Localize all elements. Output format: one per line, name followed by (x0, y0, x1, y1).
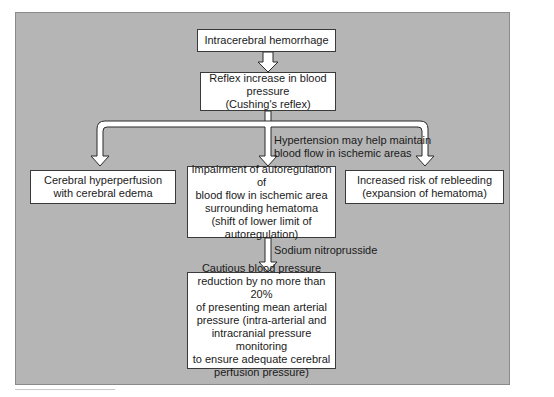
node-reflex-increase: Reflex increase in blood pressure (Cushi… (200, 72, 336, 111)
arrow-start-to-reflex (258, 52, 278, 72)
node-text: Reflex increase in blood pressure (Cushi… (204, 72, 332, 111)
edge-label-hypertension: Hypertension may help maintain blood flo… (274, 134, 431, 160)
node-cerebral-hyperperfusion: Cerebral hyperperfusion with cerebral ed… (30, 170, 176, 204)
node-cautious-bp-reduction: Cautious blood pressure reduction by no … (187, 272, 336, 369)
node-text: Increased risk of rebleeding (expansion … (357, 174, 492, 200)
edge-label-sodium-nitroprusside: Sodium nitroprusside (274, 244, 377, 257)
node-text: Cerebral hyperperfusion with cerebral ed… (44, 174, 162, 200)
node-impairment-autoregulation: Impairment of autoregulation of blood fl… (187, 166, 336, 238)
node-text: Intracerebral hemorrhage (204, 34, 328, 47)
branch-stem (265, 111, 271, 122)
node-intracerebral-hemorrhage: Intracerebral hemorrhage (197, 29, 336, 52)
node-text: Impairment of autoregulation of blood fl… (191, 163, 332, 241)
node-rebleeding-risk: Increased risk of rebleeding (expansion … (345, 170, 504, 204)
node-text: Cautious blood pressure reduction by no … (191, 262, 332, 379)
footer-rule (15, 389, 115, 390)
